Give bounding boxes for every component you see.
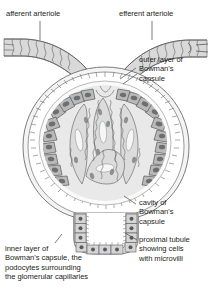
figure-canvas: afferent arteriole efferent arteriole ou… (0, 0, 211, 304)
label-efferent-arteriole: efferent arteriole (119, 9, 173, 18)
label-proximal-tubule: proximal tubule showing cells with micro… (139, 235, 190, 263)
label-cavity-bowmans-capsule: cavity of Bowman's capsule (139, 198, 173, 226)
label-afferent-arteriole: afferent arteriole (6, 9, 60, 18)
label-outer-layer-bowmans-capsule: outer layer of Bowman's capsule (139, 55, 183, 83)
label-inner-layer-podocytes: inner layer of Bowman's capsule, the pod… (5, 244, 88, 282)
leader-inner-layer (55, 234, 62, 243)
